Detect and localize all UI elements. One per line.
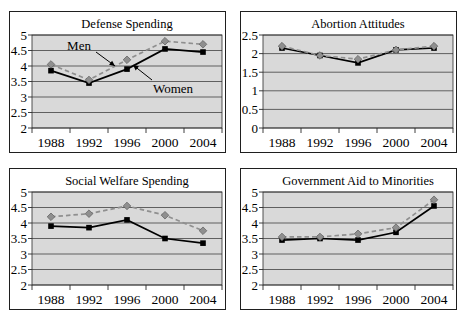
- x-tick-label: 2000: [383, 292, 410, 307]
- y-tick-label: 4: [252, 216, 259, 231]
- y-tick-label: 4.5: [11, 200, 27, 215]
- chart-defense-spending: Defense Spending54.543.532.5219881992199…: [9, 11, 226, 153]
- y-tick-label: 1.5: [242, 65, 258, 80]
- x-tick-label: 1996: [345, 135, 372, 150]
- x-tick-label: 1992: [307, 292, 334, 307]
- x-tick-label: 1988: [269, 292, 296, 307]
- chart-panel-government-aid-to-minorities: Government Aid to Minorities54.543.532.5…: [240, 168, 457, 310]
- y-tick-label: 2.5: [11, 262, 27, 277]
- x-tick-label: 2000: [383, 135, 410, 150]
- x-tick-label: 1996: [114, 135, 141, 150]
- y-tick-label: 5: [252, 185, 259, 200]
- x-tick-label: 1992: [76, 135, 103, 150]
- y-tick-label: 1: [252, 83, 259, 98]
- chart-abortion-attitudes: Abortion Attitudes2.521.510.501988199219…: [240, 11, 457, 153]
- x-tick-label: 1996: [114, 292, 141, 307]
- y-tick-label: 2: [21, 278, 28, 293]
- chart-government-aid-to-minorities: Government Aid to Minorities54.543.532.5…: [240, 168, 457, 310]
- y-tick-label: 0.5: [242, 102, 258, 117]
- chart-panel-abortion-attitudes: Abortion Attitudes2.521.510.501988199219…: [240, 11, 457, 153]
- x-tick-label: 2004: [421, 292, 448, 307]
- chart-panel-defense-spending: Defense Spending54.543.532.5219881992199…: [9, 11, 226, 153]
- x-tick-label: 1996: [345, 292, 372, 307]
- x-tick-label: 1988: [38, 135, 65, 150]
- marker-square-women: [200, 240, 206, 246]
- figure-four-panel-line-charts: Defense Spending54.543.532.5219881992199…: [0, 0, 463, 319]
- x-tick-label: 2000: [152, 135, 179, 150]
- y-tick-label: 3: [252, 247, 259, 262]
- chart-panel-social-welfare-spending: Social Welfare Spending54.543.532.521988…: [9, 168, 226, 310]
- y-tick-label: 3: [21, 247, 28, 262]
- chart-social-welfare-spending: Social Welfare Spending54.543.532.521988…: [9, 168, 226, 310]
- x-tick-label: 1992: [76, 292, 103, 307]
- annotation-label-men: Men: [67, 38, 91, 53]
- marker-square-women: [48, 223, 54, 229]
- y-tick-label: 2: [21, 121, 28, 136]
- y-tick-label: 2: [252, 278, 259, 293]
- marker-square-women: [200, 49, 206, 55]
- y-tick-label: 2.5: [242, 262, 258, 277]
- marker-square-women: [124, 66, 130, 72]
- marker-square-women: [162, 46, 168, 52]
- x-tick-label: 1988: [269, 135, 296, 150]
- y-tick-label: 3: [21, 90, 28, 105]
- y-tick-label: 5: [21, 28, 28, 43]
- x-tick-label: 1988: [38, 292, 65, 307]
- y-tick-label: 4: [21, 59, 28, 74]
- y-tick-label: 0: [252, 121, 259, 136]
- y-tick-label: 4.5: [11, 43, 27, 58]
- chart-title: Social Welfare Spending: [65, 174, 189, 188]
- y-tick-label: 2.5: [242, 28, 258, 43]
- annotation-label-women: Women: [153, 81, 194, 96]
- y-tick-label: 2: [252, 46, 259, 61]
- x-tick-label: 2004: [190, 135, 217, 150]
- y-tick-label: 2.5: [11, 105, 27, 120]
- y-tick-label: 3.5: [11, 74, 27, 89]
- x-tick-label: 2004: [190, 292, 217, 307]
- chart-title: Government Aid to Minorities: [282, 174, 434, 188]
- marker-square-women: [162, 236, 168, 242]
- marker-square-women: [124, 217, 130, 223]
- y-tick-label: 4: [21, 216, 28, 231]
- x-tick-label: 2000: [152, 292, 179, 307]
- chart-title: Defense Spending: [81, 17, 173, 31]
- marker-square-women: [86, 225, 92, 231]
- chart-title: Abortion Attitudes: [311, 17, 405, 31]
- y-tick-label: 5: [21, 185, 28, 200]
- x-tick-label: 1992: [307, 135, 334, 150]
- y-tick-label: 3.5: [11, 231, 27, 246]
- x-tick-label: 2004: [421, 135, 448, 150]
- y-tick-label: 3.5: [242, 231, 258, 246]
- y-tick-label: 4.5: [242, 200, 258, 215]
